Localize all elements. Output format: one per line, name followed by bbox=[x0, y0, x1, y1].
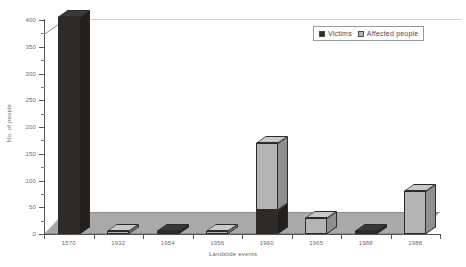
y-tick-label: 300 bbox=[0, 71, 36, 77]
bar-segment bbox=[206, 231, 228, 234]
x-tick-mark bbox=[391, 234, 392, 239]
bar-front-face bbox=[256, 143, 278, 210]
x-tick-label: 1965 bbox=[291, 240, 341, 246]
x-tick-mark bbox=[440, 234, 441, 239]
bar-segment bbox=[157, 231, 179, 234]
bar-front-face bbox=[355, 231, 377, 234]
x-tick-mark bbox=[341, 234, 342, 239]
y-tick-mark bbox=[39, 20, 45, 21]
x-tick-label: 1570 bbox=[44, 240, 94, 246]
y-tick-mark bbox=[39, 74, 45, 75]
bar-segment bbox=[355, 231, 377, 234]
bar-side-face bbox=[80, 10, 90, 234]
bar-segment bbox=[256, 143, 278, 210]
y-tick-mark bbox=[39, 154, 45, 155]
bar-segment bbox=[58, 17, 80, 234]
bar-front-face bbox=[305, 218, 327, 234]
bar-segment bbox=[404, 191, 426, 234]
bar-segment bbox=[107, 231, 129, 234]
y-minor-tick bbox=[41, 114, 45, 115]
y-tick-mark bbox=[39, 127, 45, 128]
chart-legend: Victims Affected people bbox=[313, 26, 424, 41]
y-minor-tick bbox=[41, 33, 45, 34]
x-tick-mark bbox=[193, 234, 194, 239]
legend-entry-victims: Victims bbox=[319, 30, 352, 37]
x-tick-mark bbox=[292, 234, 293, 239]
legend-label-victims: Victims bbox=[328, 30, 352, 37]
bar-front-face bbox=[206, 231, 228, 234]
bar-side-face bbox=[426, 184, 436, 234]
bar-side-face bbox=[278, 136, 288, 210]
y-tick-label: 0 bbox=[0, 231, 36, 237]
y-tick-label: 100 bbox=[0, 178, 36, 184]
y-axis-title: No. of people bbox=[6, 93, 12, 153]
legend-swatch-affected-people bbox=[358, 31, 364, 37]
y-minor-tick bbox=[41, 87, 45, 88]
x-tick-mark bbox=[44, 234, 45, 239]
legend-swatch-victims bbox=[319, 31, 325, 37]
x-axis-title: Landslide events bbox=[0, 251, 466, 257]
x-tick-label: 1954 bbox=[143, 240, 193, 246]
x-tick-label: 1956 bbox=[192, 240, 242, 246]
x-tick-label: 1988 bbox=[341, 240, 391, 246]
bar-segment bbox=[305, 218, 327, 234]
bar-segment bbox=[256, 210, 278, 234]
y-tick-mark bbox=[39, 47, 45, 48]
y-tick-mark bbox=[39, 100, 45, 101]
y-tick-label: 350 bbox=[0, 44, 36, 50]
x-tick-label: 1932 bbox=[93, 240, 143, 246]
y-minor-tick bbox=[41, 60, 45, 61]
landslide-events-chart: 050100150200250300350400 157019321954195… bbox=[0, 0, 466, 267]
y-tick-label: 50 bbox=[0, 204, 36, 210]
bar-front-face bbox=[157, 231, 179, 234]
y-minor-tick bbox=[41, 167, 45, 168]
bar-front-face bbox=[107, 231, 129, 234]
y-minor-tick bbox=[41, 221, 45, 222]
bar-front-face bbox=[404, 191, 426, 234]
x-tick-mark bbox=[242, 234, 243, 239]
x-tick-mark bbox=[143, 234, 144, 239]
bar-front-face bbox=[256, 210, 278, 234]
y-tick-label: 400 bbox=[0, 17, 36, 23]
legend-entry-affected-people: Affected people bbox=[358, 30, 419, 37]
x-tick-label: 1988 bbox=[390, 240, 440, 246]
y-minor-tick bbox=[41, 194, 45, 195]
y-tick-mark bbox=[39, 207, 45, 208]
x-tick-label: 1960 bbox=[242, 240, 292, 246]
legend-label-affected-people: Affected people bbox=[367, 30, 419, 37]
y-minor-tick bbox=[41, 140, 45, 141]
x-tick-mark bbox=[94, 234, 95, 239]
y-tick-mark bbox=[39, 181, 45, 182]
bar-front-face bbox=[58, 17, 80, 234]
